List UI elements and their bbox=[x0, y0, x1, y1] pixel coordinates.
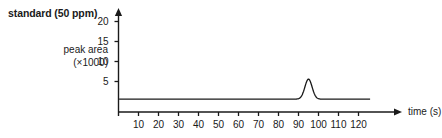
x-tick-label-120: 120 bbox=[345, 120, 373, 130]
x-axis-label: time (s) bbox=[408, 107, 441, 117]
y-tick-label-20: 20 bbox=[87, 17, 109, 27]
y-tick-label-10: 10 bbox=[87, 57, 109, 67]
chromatogram-trace bbox=[119, 79, 370, 99]
y-tick-label-15: 15 bbox=[87, 37, 109, 47]
axes-group bbox=[115, 8, 402, 116]
plot-canvas bbox=[0, 0, 442, 138]
x-axis-arrowhead bbox=[394, 108, 402, 115]
y-tick-label-5: 5 bbox=[87, 77, 109, 87]
chromatogram-figure: standard (50 ppm) peak area (×1000) 5101… bbox=[0, 0, 442, 138]
y-axis-arrowhead bbox=[115, 8, 122, 16]
